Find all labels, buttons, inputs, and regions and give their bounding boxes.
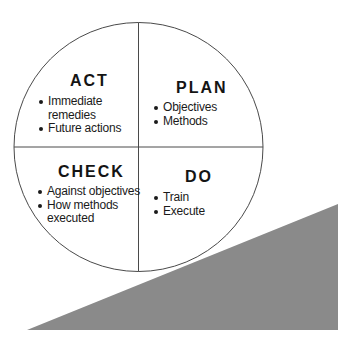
act-title: ACT: [70, 73, 109, 89]
do-bullet-list: Train Execute: [153, 191, 205, 218]
act-item-future-actions: Future actions: [38, 122, 121, 136]
act-item-immediate-remedies: Immediate remedies: [38, 95, 121, 122]
do-title: DO: [185, 169, 213, 185]
check-bullet-list: Against objectives How methods executed: [37, 185, 140, 226]
plan-bullet-list: Objectives Methods: [153, 101, 217, 128]
do-item-train-label: Train: [163, 190, 189, 204]
check-title: CHECK: [58, 164, 125, 180]
check-item-how-methods-executed: How methods executed: [37, 199, 140, 226]
act-item-line-1: Immediate: [48, 94, 102, 108]
plan-item-objectives: Objectives: [153, 101, 217, 115]
plan-item-methods: Methods: [153, 115, 217, 129]
act-bullet-list: Immediate remedies Future actions: [38, 95, 121, 136]
check-item-against-objectives: Against objectives: [37, 185, 140, 199]
plan-item-objectives-label: Objectives: [163, 100, 217, 114]
do-item-execute-label: Execute: [163, 204, 205, 218]
do-item-train: Train: [153, 191, 205, 205]
plan-title: PLAN: [176, 80, 228, 96]
check-item-against-objectives-label: Against objectives: [47, 184, 140, 198]
check-item-line-2: How methods: [47, 198, 118, 212]
act-item-line-3: Future actions: [48, 121, 121, 135]
act-item-line-2: remedies: [48, 108, 96, 122]
do-item-execute: Execute: [153, 205, 205, 219]
plan-item-methods-label: Methods: [163, 114, 208, 128]
check-item-line-3: executed: [47, 211, 94, 225]
pdca-diagram-graphics: [0, 0, 353, 344]
